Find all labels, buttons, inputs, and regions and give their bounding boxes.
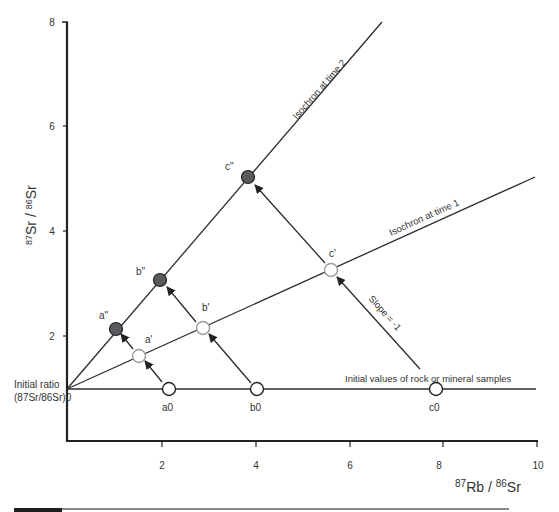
- label-c-double-prime: c": [225, 161, 234, 172]
- point-b-prime: [197, 322, 210, 335]
- x-tick-label-2: 2: [159, 460, 165, 471]
- y-tick-label-4: 4: [49, 226, 55, 237]
- arrow-b1-b2: [167, 287, 196, 322]
- footer-bar-light: [62, 508, 509, 510]
- point-c-prime: [325, 264, 338, 277]
- x-tick-label-4: 4: [253, 460, 259, 471]
- initial-ratio-formula: (87Sr/86Sr)0: [14, 392, 72, 403]
- point-a-prime: [133, 350, 146, 363]
- label-a0: a0: [162, 402, 174, 413]
- baseline-label: Initial values of rock or mineral sample…: [345, 373, 512, 384]
- point-a-double-prime: [110, 323, 123, 336]
- initial-ratio-label: Initial ratio: [14, 379, 60, 390]
- point-c0: [430, 383, 443, 396]
- point-c-double-prime: [242, 171, 255, 184]
- arrow-a0-a1: [145, 361, 162, 382]
- label-b-prime: b': [202, 302, 210, 313]
- label-a-prime: a': [145, 334, 153, 345]
- label-a-double-prime: a": [99, 310, 109, 321]
- arrow-c0-c1: [337, 277, 420, 369]
- y-axis-title: 87Sr / 86Sr: [23, 185, 39, 245]
- point-b0: [251, 383, 264, 396]
- label-b0: b0: [250, 402, 262, 413]
- arrow-a1-a2: [121, 334, 133, 349]
- label-c-prime: c': [329, 248, 336, 259]
- arrow-c1-c2: [255, 185, 325, 263]
- arrow-b0-b1: [209, 334, 251, 383]
- x-tick-label-6: 6: [347, 460, 353, 471]
- isochron-time-1-label: Isochron at time 1: [387, 196, 460, 237]
- y-tick-label-2: 2: [49, 331, 55, 342]
- y-tick-label-8: 8: [49, 17, 55, 28]
- x-tick-label-10: 10: [532, 460, 544, 471]
- label-b-double-prime: b": [136, 266, 146, 277]
- point-a0: [163, 383, 176, 396]
- x-tick-label-8: 8: [436, 460, 442, 471]
- label-c0: c0: [429, 402, 440, 413]
- isochron-diagram: 2 4 6 8 10 8 6 4 2 87Sr / 86Sr 87Rb / 86…: [0, 0, 559, 512]
- x-axis-title: 87Rb / 86Sr: [455, 478, 521, 495]
- point-b-double-prime: [154, 274, 167, 287]
- isochron-time-2-label: Isochron at time 2: [290, 57, 348, 121]
- footer-bar-dark: [14, 508, 62, 512]
- slope-label: Slope = -1: [367, 293, 404, 333]
- y-tick-label-6: 6: [49, 121, 55, 132]
